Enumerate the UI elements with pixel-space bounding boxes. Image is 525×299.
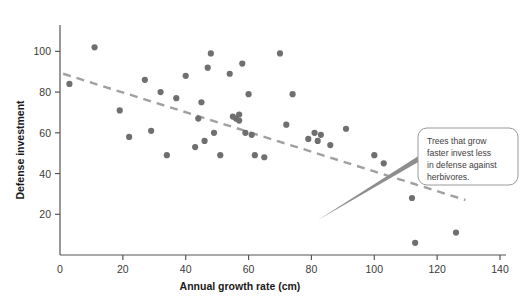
- scatter-point: [198, 99, 204, 105]
- scatter-point: [277, 50, 283, 56]
- scatter-point: [412, 240, 418, 246]
- scatter-point: [236, 118, 242, 124]
- scatter-point: [208, 50, 214, 56]
- x-axis-tick-label: 40: [180, 263, 192, 275]
- scatter-point: [227, 71, 233, 77]
- y-axis-tick-label: 40: [39, 168, 51, 180]
- scatter-point: [183, 73, 189, 79]
- scatter-point: [327, 142, 333, 148]
- x-axis-tick-label: 60: [243, 263, 255, 275]
- scatter-point: [195, 115, 201, 121]
- x-axis-tick-label: 120: [428, 263, 446, 275]
- scatter-point: [157, 89, 163, 95]
- callout-line-4: herbivores.: [427, 172, 470, 182]
- scatter-point: [252, 152, 258, 158]
- scatter-point: [148, 128, 154, 134]
- scatter-point: [217, 152, 223, 158]
- scatter-point: [164, 152, 170, 158]
- scatter-point: [239, 60, 245, 66]
- y-axis-label: Defense investment: [14, 100, 26, 200]
- scatter-point: [245, 91, 251, 97]
- trendline-path: [63, 74, 465, 200]
- scatter-point: [318, 132, 324, 138]
- scatter-point: [192, 144, 198, 150]
- annotation-callout: Trees that grow faster invest less in de…: [318, 128, 518, 220]
- x-axis-tick-label: 100: [366, 263, 384, 275]
- scatter-point: [305, 136, 311, 142]
- scatter-point: [201, 138, 207, 144]
- x-axis-label: Annual growth rate (cm): [180, 280, 301, 292]
- scatter-point: [236, 111, 242, 117]
- scatter-point: [409, 195, 415, 201]
- scatter-point: [371, 152, 377, 158]
- y-axis-tick-label: 20: [39, 208, 51, 220]
- x-axis-tick-label: 20: [117, 263, 129, 275]
- callout-pointer-line: [318, 155, 420, 220]
- scatter-point: [205, 65, 211, 71]
- x-axis-tick-label: 80: [306, 263, 318, 275]
- scatter-point: [343, 126, 349, 132]
- scatter-point: [117, 107, 123, 113]
- callout-line-1: Trees that grow: [427, 136, 487, 146]
- callout-line-3: in defense against: [427, 160, 497, 170]
- scatter-point: [381, 160, 387, 166]
- trendline: [63, 74, 465, 200]
- callout-line-2: faster invest less: [427, 148, 491, 158]
- scatter-point: [91, 44, 97, 50]
- scatter-point: [142, 77, 148, 83]
- scatter-point: [283, 122, 289, 128]
- scatter-point: [311, 130, 317, 136]
- scatter-point: [249, 132, 255, 138]
- y-axis-tick-label: 80: [39, 86, 51, 98]
- scatter-point: [289, 91, 295, 97]
- x-axis-label-text: Annual growth rate (cm): [180, 280, 301, 292]
- scatter-point: [173, 95, 179, 101]
- scatter-point: [126, 134, 132, 140]
- scatter-chart: 20406080100020406080100120140 Defense in…: [0, 0, 525, 299]
- scatter-point: [315, 138, 321, 144]
- scatter-point: [211, 130, 217, 136]
- scatter-point: [66, 81, 72, 87]
- scatter-point: [261, 154, 267, 160]
- data-points: [66, 44, 468, 246]
- x-axis-tick-label: 0: [57, 263, 63, 275]
- scatter-point: [453, 230, 459, 236]
- y-axis-tick-label: 100: [33, 45, 51, 57]
- y-axis-tick-label: 60: [39, 127, 51, 139]
- scatter-point: [242, 130, 248, 136]
- x-axis-tick-label: 140: [491, 263, 509, 275]
- y-axis-label-text: Defense investment: [14, 100, 26, 200]
